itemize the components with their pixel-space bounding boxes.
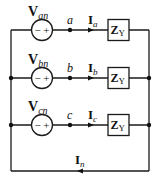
node-dot [68, 28, 72, 32]
current-label: Ib [88, 60, 98, 77]
phase-row-1: − +VbnbIbZY [9, 52, 151, 89]
polarity-label: − + [34, 24, 49, 36]
neutral-current-label: In [75, 152, 85, 169]
polarity-label: − + [34, 119, 49, 131]
current-label: Ic [88, 107, 97, 124]
junction-dot-left [9, 76, 13, 80]
node-dot [68, 123, 72, 127]
polarity-label: − + [34, 72, 49, 84]
junction-dot-right [147, 76, 151, 80]
junction-dot-right [147, 123, 151, 127]
node-label: a [67, 13, 73, 27]
source-label: Vbn [28, 52, 48, 69]
node-label: b [67, 61, 73, 75]
current-label: Ia [88, 12, 98, 29]
phase-row-0: − +VanaIaZY [11, 4, 149, 41]
node-label: c [67, 108, 73, 122]
junction-dot-left [9, 123, 13, 127]
circuit-diagram: − +VanaIaZY− +VbnbIbZY− +VcncIcZY In [0, 0, 165, 182]
source-label: Van [28, 4, 48, 21]
phase-row-2: − +VcncIcZY [9, 99, 151, 136]
node-dot [68, 76, 72, 80]
source-label: Vcn [28, 99, 48, 116]
neutral-current-arrow [77, 169, 83, 174]
